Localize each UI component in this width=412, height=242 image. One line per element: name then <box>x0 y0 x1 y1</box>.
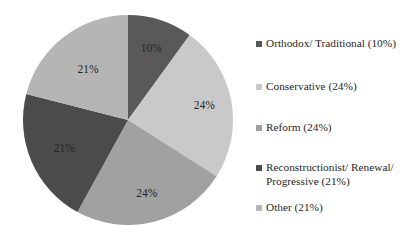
legend-label-conservative: Conservative (24%) <box>266 80 357 94</box>
legend-label-reconstructionist-renewal-progressive: Reconstructionist/ Renewal/ Progressive … <box>266 161 394 188</box>
legend-swatch-icon-reconstructionist-renewal-progressive <box>256 165 262 171</box>
chart-legend: Orthodox/ Traditional (10%) Conservative… <box>256 0 412 242</box>
legend-item-orthodox-traditional[interactable]: Orthodox/ Traditional (10%) <box>256 37 412 51</box>
legend-swatch-icon-orthodox-traditional <box>256 41 262 47</box>
pie-slices-group <box>23 15 233 225</box>
pie-slice-value-label: 21% <box>54 142 76 154</box>
legend-swatch-icon-reform <box>256 125 262 131</box>
legend-label-reform: Reform (24%) <box>266 121 332 135</box>
legend-item-conservative[interactable]: Conservative (24%) <box>256 80 412 94</box>
pie-chart-figure: 10%24%24%21%21% Orthodox/ Traditional (1… <box>0 0 412 242</box>
pie-slice-value-label: 10% <box>141 42 163 54</box>
legend-swatch-icon-conservative <box>256 84 262 90</box>
legend-swatch-icon-other <box>256 205 262 211</box>
legend-item-other[interactable]: Other (21%) <box>256 201 412 215</box>
pie-slice-value-label: 24% <box>136 187 158 199</box>
legend-item-reform[interactable]: Reform (24%) <box>256 121 412 135</box>
legend-label-orthodox-traditional: Orthodox/ Traditional (10%) <box>266 37 396 51</box>
pie-slice-value-label: 21% <box>78 63 100 75</box>
legend-label-other: Other (21%) <box>266 201 323 215</box>
legend-item-reconstructionist-renewal-progressive[interactable]: Reconstructionist/ Renewal/ Progressive … <box>256 161 412 188</box>
pie-slice-value-label: 24% <box>194 99 216 111</box>
pie-svg: 10%24%24%21%21% <box>0 0 252 242</box>
pie-plot-area: 10%24%24%21%21% <box>0 0 252 242</box>
